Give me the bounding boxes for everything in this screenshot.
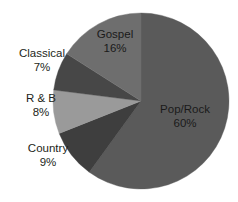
pie-label-gospel: Gospel 16%	[84, 28, 146, 55]
pie-label-pop-rock-name: Pop/Rock	[147, 103, 223, 117]
pie-label-classical-name: Classical	[6, 47, 78, 61]
pie-label-classical: Classical 7%	[6, 47, 78, 74]
pie-label-rnb: R & B 8%	[10, 92, 72, 119]
pie-label-country-name: Country	[12, 142, 84, 156]
pie-label-rnb-name: R & B	[10, 92, 72, 106]
pie-label-country: Country 9%	[12, 142, 84, 169]
pie-label-gospel-value: 16%	[84, 42, 146, 56]
pie-label-pop-rock: Pop/Rock 60%	[147, 103, 223, 130]
pie-chart: Gospel 16% Classical 7% R & B 8% Country…	[0, 0, 238, 202]
pie-label-rnb-value: 8%	[10, 106, 72, 120]
pie-label-country-value: 9%	[12, 156, 84, 170]
pie-label-classical-value: 7%	[6, 61, 78, 75]
pie-label-gospel-name: Gospel	[84, 28, 146, 42]
pie-label-pop-rock-value: 60%	[147, 117, 223, 131]
